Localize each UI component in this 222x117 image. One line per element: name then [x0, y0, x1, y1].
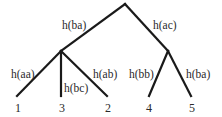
edge-label-right-5: h(ba) [186, 68, 210, 81]
edge-label-left-2: h(ab) [93, 68, 117, 81]
edge-label-left-3: h(bc) [64, 82, 88, 95]
tree-diagram: h(ba) h(ac) h(aa) h(bc) h(ab) h(bb) h(ba… [0, 0, 222, 117]
leaf-label-5: 5 [189, 101, 195, 115]
leaf-label-1: 1 [15, 101, 21, 115]
edge-label-root-right: h(ac) [153, 19, 177, 32]
edge-label-root-left: h(ba) [62, 19, 86, 32]
leaf-label-4: 4 [146, 101, 152, 115]
edge-label-left-1: h(aa) [11, 68, 35, 81]
edge-label-right-4: h(bb) [129, 68, 154, 81]
leaf-label-2: 2 [105, 101, 111, 115]
leaf-label-3: 3 [59, 101, 65, 115]
